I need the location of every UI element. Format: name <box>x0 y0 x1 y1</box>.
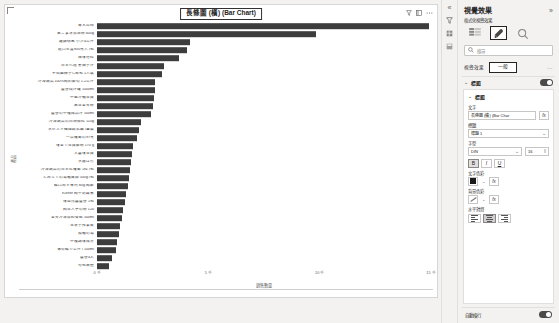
align-center-button[interactable] <box>483 214 496 223</box>
bar-row[interactable]: 鐵鍋燉煮 小沙4公升 <box>19 38 431 46</box>
background-color-fx-button[interactable]: fx <box>489 195 499 204</box>
bar[interactable] <box>97 231 119 237</box>
focus-mode-icon[interactable] <box>416 10 422 16</box>
bar-row[interactable]: 揚麵の湯 <box>19 230 431 238</box>
card-header[interactable]: ⌄ 標題 <box>468 93 549 102</box>
text-color-fx-button[interactable]: fx <box>489 177 499 186</box>
bar-row[interactable]: 甲種調味成分 <box>19 238 431 246</box>
bar-row[interactable]: 糖口みそ專用 80g 純鮮 <box>19 182 431 190</box>
bar-row[interactable]: 水晶は竹 <box>19 158 431 166</box>
bar[interactable] <box>97 135 137 141</box>
bar[interactable] <box>97 63 164 69</box>
bar-row[interactable]: 黑ごま冰淇淋粉 600g <box>19 30 431 38</box>
bar-row[interactable]: 味自然醬蘆薈 1包 <box>19 198 431 206</box>
expand-panes-chevron[interactable]: « <box>448 4 452 11</box>
bar-row[interactable]: どみなでの湯麵高級 500g /包 <box>19 174 431 182</box>
chevron-down-icon[interactable]: ⌄ <box>481 197 486 202</box>
analytics-magnifier-icon[interactable] <box>514 26 531 40</box>
tab-visual[interactable]: 視覺效果 <box>464 64 484 70</box>
more-options-icon[interactable] <box>426 10 433 16</box>
bar-row[interactable]: 日本代理 蔥抽子汁 <box>19 62 431 70</box>
align-left-button[interactable] <box>468 214 481 223</box>
auto-wrap-toggle[interactable] <box>539 311 552 318</box>
underline-button[interactable]: U <box>494 159 505 168</box>
bar[interactable] <box>97 207 123 213</box>
italic-button[interactable]: I <box>481 159 492 168</box>
bar-row[interactable]: 一品蘿蔔の97克 <box>19 134 431 142</box>
bar-row[interactable]: 不知園柿子C每包 1入裝 <box>19 70 431 78</box>
bar-row[interactable]: 純豆入芋の粉 120 <box>19 206 431 214</box>
bar-row[interactable]: 大醬味豆腐 <box>19 150 431 158</box>
title-text-input[interactable]: 長條圖 (橫) (Bar Char <box>468 111 536 120</box>
tab-general[interactable]: 一般 <box>489 62 517 73</box>
tabs-more-icon[interactable]: ... <box>547 64 553 70</box>
bar[interactable] <box>97 151 132 157</box>
font-family-select[interactable]: DIN ⌄ <box>468 147 522 156</box>
bar-row[interactable]: 水芒スキ韓國酸乳酪 /盒裝 <box>19 126 431 134</box>
bar-row[interactable]: *冷凍蔬菜100%純的鮮筍 1.2公斤 <box>19 78 431 86</box>
bar[interactable] <box>97 223 120 229</box>
format-paint-icon[interactable] <box>490 26 507 40</box>
bar[interactable] <box>97 47 187 53</box>
bar[interactable] <box>97 111 151 117</box>
bar-chart-visual[interactable]: 長條圖 (橫) (Bar Chart) 產品 青木瓜絲黑ごま冰淇淋粉 600g鐵… <box>4 4 438 298</box>
bar[interactable] <box>97 159 131 165</box>
bar[interactable] <box>97 39 190 45</box>
bar[interactable] <box>97 255 112 261</box>
bar-row[interactable]: *冷凍蔬菜の日本紅蘿蔔 1粒 /包 <box>19 166 431 174</box>
bar[interactable] <box>97 31 316 37</box>
search-input[interactable]: 搜尋 <box>464 45 553 56</box>
filter-pane-icon[interactable] <box>445 16 454 24</box>
bold-button[interactable]: B <box>468 159 479 168</box>
bar[interactable] <box>97 215 122 221</box>
fields-pane-icon[interactable] <box>445 29 454 37</box>
bar-row[interactable]: *冷凍蔬菜の白胡椒粒 110g <box>19 118 431 126</box>
bar-row[interactable]: 黑豆全麥粉 <box>19 102 431 110</box>
text-color-swatch[interactable] <box>468 177 478 186</box>
title-fx-button[interactable]: fx <box>539 111 549 120</box>
background-color-swatch[interactable] <box>468 195 478 204</box>
filter-icon[interactable] <box>406 10 412 16</box>
bar-row[interactable]: 味全で豆腐鮮粉 170 g <box>19 142 431 150</box>
bar-row[interactable]: 薄荷糖 /7公升 / 100ml <box>19 246 431 254</box>
format-pane-icon[interactable] <box>445 42 454 50</box>
fields-icon[interactable] <box>466 26 483 40</box>
bar[interactable] <box>97 119 141 125</box>
font-size-stepper[interactable]: 16 ˄˅ <box>525 147 549 156</box>
bar-row[interactable]: 進口生薑900克入 /包 <box>19 46 431 54</box>
auto-wrap-row[interactable]: 自動換行 <box>462 307 555 323</box>
bar-row[interactable]: 蘆薈燒汁罐 1000ml <box>19 86 431 94</box>
bar-row[interactable]: 句包無鹽 <box>19 262 431 270</box>
bar-row[interactable]: 中華冷麵豆腐 <box>19 94 431 102</box>
bar-row[interactable]: 全麥冷凍飲料餐點 500ml <box>19 214 431 222</box>
bar[interactable] <box>97 199 125 205</box>
chevron-down-icon[interactable]: ⌄ <box>481 179 486 184</box>
bar-row[interactable]: 蘆薈の甲種成品汁 500ml <box>19 110 431 118</box>
bar[interactable] <box>97 263 109 269</box>
report-canvas[interactable]: 長條圖 (橫) (Bar Chart) 產品 青木瓜絲黑ごま冰淇淋粉 600g鐵… <box>0 0 441 323</box>
bar[interactable] <box>97 71 162 77</box>
chart-title[interactable]: 長條圖 (橫) (Bar Chart) <box>180 8 262 20</box>
bar[interactable] <box>97 175 129 181</box>
bar[interactable] <box>97 95 154 101</box>
pane-expand-icon[interactable]: » <box>549 7 553 14</box>
bar-row[interactable]: 辣味噌粒 <box>19 54 431 62</box>
bar[interactable] <box>97 191 126 197</box>
title-section-toggle[interactable] <box>540 79 553 86</box>
heading-select[interactable]: 標題 1 ⌄ <box>468 129 549 138</box>
bar[interactable] <box>97 23 429 29</box>
bar[interactable] <box>97 127 139 133</box>
bar[interactable] <box>97 167 130 173</box>
bar[interactable] <box>97 143 133 149</box>
bar[interactable] <box>97 247 116 253</box>
bar[interactable] <box>97 87 155 93</box>
bar-row[interactable]: 蘆薈4人 <box>19 254 431 262</box>
bar[interactable] <box>97 55 179 61</box>
bar-row[interactable]: Kurtler 純牛奶酵素 <box>19 190 431 198</box>
title-section-header[interactable]: ⌄ 標題 <box>462 76 555 88</box>
bar[interactable] <box>97 183 128 189</box>
bar-row[interactable]: 青木瓜絲 <box>19 22 431 30</box>
bar-row[interactable]: *玉葉手搾果皮 <box>19 222 431 230</box>
bar[interactable] <box>97 239 117 245</box>
bar[interactable] <box>97 79 155 85</box>
